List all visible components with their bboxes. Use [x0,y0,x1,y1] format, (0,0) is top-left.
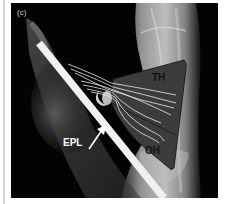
xray-illustration [11,3,218,198]
xray-figure: (c) TH OH EPL [11,3,218,198]
panel-label: (c) [17,8,26,17]
label-epl: EPL [63,137,82,148]
label-th: TH [152,72,165,83]
label-oh: OH [145,145,160,156]
adjacent-panel-edge [3,0,5,204]
